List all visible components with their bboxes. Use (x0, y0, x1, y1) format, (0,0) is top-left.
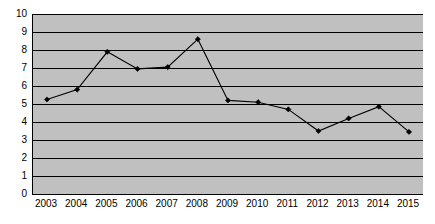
y-tick-label: 8 (1, 45, 27, 55)
y-tick-label: 7 (1, 63, 27, 73)
y-tick-label: 4 (1, 117, 27, 127)
line-chart: 012345678910 200320042005200620072008200… (0, 0, 435, 224)
data-point-marker (346, 116, 351, 121)
data-point-marker (225, 98, 230, 103)
y-tick-label: 5 (1, 99, 27, 109)
y-tick-label: 9 (1, 27, 27, 37)
data-series-line (47, 39, 409, 132)
y-tick-label: 2 (1, 153, 27, 163)
y-tick-label: 1 (1, 171, 27, 181)
gridlines (33, 15, 423, 177)
data-point-markers (44, 37, 411, 135)
data-point-marker (135, 66, 140, 71)
x-axis-tick-labels: 2003200420052006200720082009201020112012… (32, 198, 422, 218)
plot-area (32, 14, 423, 195)
y-axis-tick-labels: 012345678910 (0, 0, 30, 224)
y-tick-label: 6 (1, 81, 27, 91)
y-tick-label: 10 (1, 9, 27, 19)
data-point-marker (44, 97, 49, 102)
y-tick-label: 0 (1, 189, 27, 199)
chart-plot-svg (33, 14, 423, 194)
x-tick-label: 2015 (388, 198, 428, 210)
y-tick-label: 3 (1, 135, 27, 145)
